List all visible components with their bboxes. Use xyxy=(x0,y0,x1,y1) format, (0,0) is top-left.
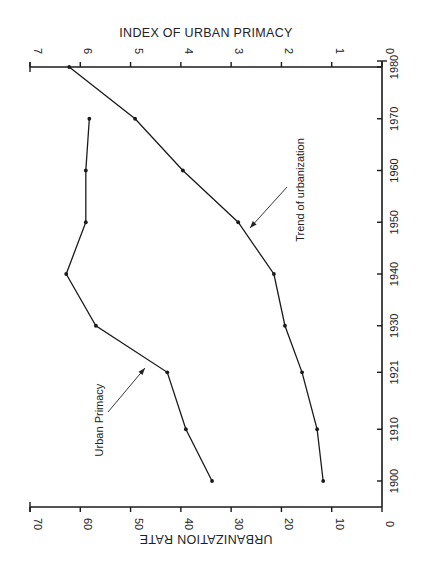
bottom-axis-tick-label: 40 xyxy=(183,518,195,530)
top-axis-tick-label: 3 xyxy=(233,48,245,54)
trend-of-urbanization-point xyxy=(283,324,287,328)
top-axis-tick-label: 7 xyxy=(32,48,44,54)
trend-of-urbanization-point xyxy=(321,479,325,483)
bottom-axis-title: URBANIZATION RATE xyxy=(139,532,272,546)
bottom-axis-tick-label: 50 xyxy=(133,518,145,530)
time-axis-tick-label: 1950 xyxy=(388,210,400,234)
trend-of-urbanization-point xyxy=(315,427,319,431)
chart-axes: 0123456701020304050607019001910192119301… xyxy=(30,48,400,530)
top-axis-tick-label: 4 xyxy=(183,48,195,54)
trend-of-urbanization-point xyxy=(181,169,185,173)
top-axis-tick-label: 1 xyxy=(334,48,346,54)
time-axis-tick-label: 1940 xyxy=(388,262,400,286)
urban-primacy-point xyxy=(210,479,214,483)
bottom-axis-tick-label: 10 xyxy=(334,518,346,530)
bottom-axis-tick-label: 20 xyxy=(283,518,295,530)
top-axis-tick-label: 0 xyxy=(384,48,396,54)
urban-primacy-point xyxy=(94,324,98,328)
trend-arrow-icon xyxy=(250,187,287,228)
time-axis-tick-label: 1910 xyxy=(388,417,400,441)
urban-primacy-line xyxy=(66,119,212,481)
bottom-axis-tick-label: 70 xyxy=(32,518,44,530)
time-axis-tick-label: 1960 xyxy=(388,158,400,182)
trend-of-urbanization-point xyxy=(272,272,276,276)
trend-of-urbanization-line xyxy=(69,67,323,481)
top-axis-tick-label: 2 xyxy=(283,48,295,54)
urban-primacy-point xyxy=(87,117,91,121)
annotation-urban-primacy: Urban Primacy xyxy=(93,383,105,456)
urban-primacy-arrow-icon xyxy=(108,368,145,412)
bottom-axis-tick-label: 30 xyxy=(233,518,245,530)
time-axis-tick-label: 1930 xyxy=(388,314,400,338)
trend-of-urbanization-point xyxy=(236,220,240,224)
top-axis-title: INDEX OF URBAN PRIMACY xyxy=(119,26,293,40)
top-axis-tick-label: 5 xyxy=(133,48,145,54)
urban-primacy-point xyxy=(165,370,169,374)
trend-of-urbanization-point xyxy=(67,65,71,69)
trend-of-urbanization-point xyxy=(133,117,137,121)
bottom-axis-tick-label: 60 xyxy=(82,518,94,530)
urbanization-primacy-chart: 0123456701020304050607019001910192119301… xyxy=(0,0,426,570)
time-axis-tick-label: 1970 xyxy=(388,107,400,131)
urban-primacy-point xyxy=(84,169,88,173)
urban-primacy-point xyxy=(64,272,68,276)
trend-of-urbanization-point xyxy=(300,370,304,374)
time-axis-tick-label: 1980 xyxy=(388,55,400,79)
annotation-trend-urbanization: Trend of urbanization xyxy=(294,138,306,242)
urban-primacy-point xyxy=(184,427,188,431)
time-axis-tick-label: 1921 xyxy=(388,360,400,384)
chart-annotations xyxy=(108,187,287,412)
top-axis-tick-label: 6 xyxy=(82,48,94,54)
urban-primacy-point xyxy=(84,220,88,224)
time-axis-tick-label: 1900 xyxy=(388,469,400,493)
bottom-axis-tick-label: 0 xyxy=(384,521,396,527)
